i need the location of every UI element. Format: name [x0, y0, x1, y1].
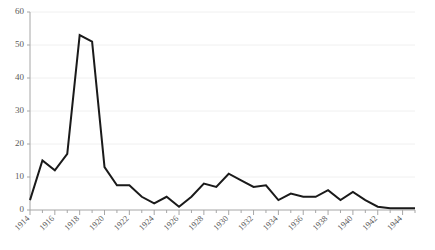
line-chart: 0102030405060 19141916191819201922192419…	[0, 0, 435, 250]
x-axis-tick-label: 1940	[335, 213, 354, 232]
x-axis-tick-label: 1930	[211, 213, 230, 232]
x-axis-tick-label: 1936	[286, 213, 305, 232]
y-axis-tick-label: 30	[15, 105, 25, 115]
data-series-line	[30, 35, 415, 208]
y-axis-tick-label: 50	[15, 39, 25, 49]
x-axis-tick-label: 1916	[37, 213, 56, 232]
x-axis-tick-label: 1924	[137, 213, 157, 233]
y-axis-tick-label: 10	[15, 171, 25, 181]
y-axis-tick-label: 20	[15, 138, 25, 148]
y-axis-tick-label: 0	[20, 204, 25, 214]
x-axis-tick-label: 1922	[112, 213, 131, 232]
y-axis-tick-labels: 0102030405060	[15, 6, 25, 214]
gridline-group	[30, 12, 415, 177]
y-axis-tick-label: 40	[15, 72, 25, 82]
y-axis-tick-label: 60	[15, 6, 25, 16]
x-axis-tick-label: 1928	[186, 213, 205, 232]
x-axis-tick-labels: 1914191619181920192219241926192819301932…	[12, 213, 404, 233]
x-axis-tick-label: 1938	[310, 213, 329, 232]
x-axis-tick-label: 1944	[385, 213, 405, 233]
x-axis-tick-label: 1934	[261, 213, 281, 233]
x-axis-tick-label: 1920	[87, 213, 106, 232]
chart-canvas: 0102030405060 19141916191819201922192419…	[0, 0, 435, 250]
x-axis-tick-label: 1914	[12, 213, 32, 233]
x-axis-tick-label: 1942	[360, 213, 379, 232]
x-axis-tick-label: 1918	[62, 213, 81, 232]
x-axis-tick-label: 1926	[161, 213, 180, 232]
x-axis-tick-label: 1932	[236, 213, 255, 232]
